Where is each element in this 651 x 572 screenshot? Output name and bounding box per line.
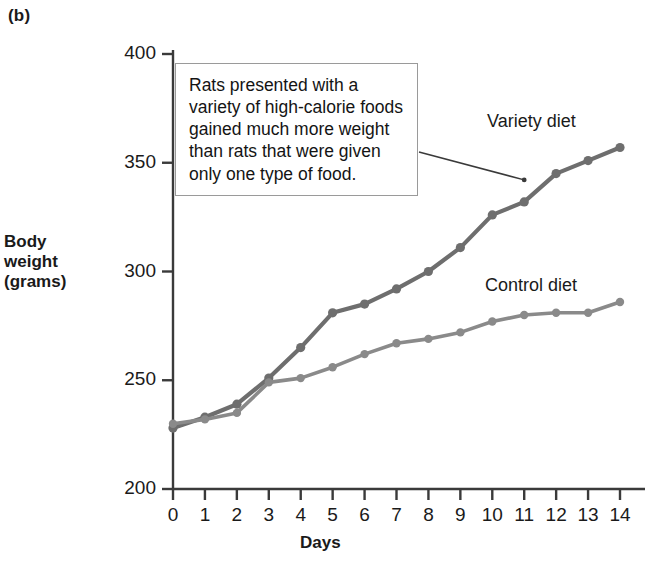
callout-annotation: Rats presented with a variety of high-ca… [175,63,418,196]
data-point [520,197,529,206]
x-tick-label: 2 [222,504,252,526]
data-point [297,374,305,382]
x-tick-label: 1 [190,504,220,526]
data-point [392,339,400,347]
data-point [328,308,337,317]
data-point [616,298,624,306]
y-tick-label: 350 [100,151,156,173]
x-tick-label: 14 [605,504,635,526]
x-tick-label: 0 [158,504,188,526]
series-label-variety: Variety diet [487,111,576,132]
data-point [233,409,241,417]
data-point [360,300,369,309]
x-axis-ticks [173,489,620,500]
x-tick-label: 9 [445,504,475,526]
x-tick-label: 7 [382,504,412,526]
data-point [296,343,305,352]
x-tick-label: 5 [318,504,348,526]
y-tick-label: 300 [100,260,156,282]
data-point [392,284,401,293]
x-tick-label: 10 [477,504,507,526]
figure-panel: (b) Body weight (grams) Days 20025030035… [0,0,651,572]
series-label-control: Control diet [485,275,577,296]
y-tick-label: 250 [100,368,156,390]
x-tick-label: 12 [541,504,571,526]
data-point [360,350,368,358]
data-point [552,169,561,178]
data-point [265,378,273,386]
x-tick-label: 6 [350,504,380,526]
data-point [520,311,528,319]
data-point [201,415,209,423]
data-point [488,210,497,219]
data-point [424,335,432,343]
data-point [488,317,496,325]
callout-text: Rats presented with a variety of high-ca… [189,74,405,185]
y-tick-label: 400 [100,42,156,64]
x-tick-label: 8 [413,504,443,526]
x-tick-label: 13 [573,504,603,526]
data-point [584,156,593,165]
x-tick-label: 4 [286,504,316,526]
data-point [584,309,592,317]
y-tick-label: 200 [100,477,156,499]
data-point [456,328,464,336]
data-point [424,267,433,276]
x-tick-label: 11 [509,504,539,526]
callout-leader-line [419,152,527,182]
data-point [615,143,624,152]
data-point [552,309,560,317]
data-point [456,243,465,252]
x-tick-label: 3 [254,504,284,526]
leader-line-endpoint [522,178,527,183]
data-point [169,420,177,428]
data-point [328,363,336,371]
